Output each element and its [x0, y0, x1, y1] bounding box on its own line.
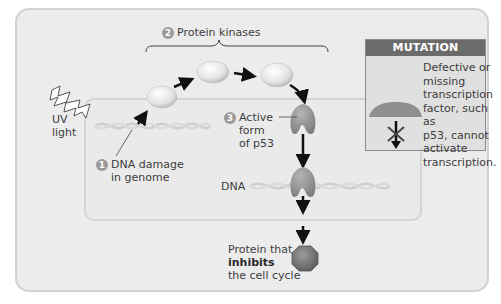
p53-bound-protein: [290, 167, 315, 197]
dna-strand-right: [250, 184, 390, 189]
step-1-number: 1: [96, 159, 108, 171]
kinase-3: [261, 63, 293, 87]
kinase-bracket: [146, 40, 328, 52]
step-2-label: 2Protein kinases: [162, 26, 260, 39]
mutation-description: Defective or missing transcription facto…: [423, 61, 496, 169]
dna-strand-left: [95, 124, 210, 129]
kinase-1: [147, 86, 177, 108]
mutation-artwork: [366, 57, 426, 152]
defective-factor-icon: [369, 102, 422, 117]
step-2-number: 2: [162, 27, 174, 39]
step-3-number: 3: [224, 112, 236, 124]
step-3-label: 3Active form of p53: [224, 111, 274, 150]
kinase-2: [197, 61, 229, 83]
mutation-header: MUTATION: [366, 40, 485, 56]
p53-active-protein: [290, 104, 315, 134]
uv-light-label: UV light: [52, 113, 76, 139]
product-label: Protein that inhibits the cell cycle: [228, 243, 300, 282]
dna-label: DNA: [221, 180, 245, 193]
mutation-callout: MUTATION Defective or missing transcript…: [365, 39, 486, 151]
step-1-label: 1DNA damage in genome: [96, 158, 184, 184]
